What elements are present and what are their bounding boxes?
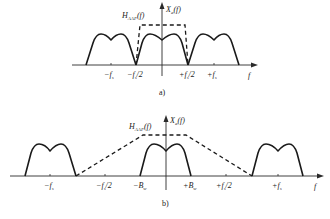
- panel-a: HAAF(f) Xa(f) −fs −fs/2 +fs/2 +fs f a): [72, 2, 258, 97]
- caption-b: b): [162, 199, 169, 208]
- caption-a: a): [159, 88, 166, 97]
- spectrum-replica-right: [188, 34, 239, 65]
- aliasing-diagram: HAAF(f) Xa(f) −fs −fs/2 +fs/2 +fs f a) H…: [0, 0, 330, 219]
- axis-arrow-icon: [251, 63, 258, 68]
- axis-arrow-icon: [164, 115, 169, 122]
- axis-arrow-icon: [317, 174, 324, 179]
- spectrum-label: Xa(f): [165, 5, 181, 15]
- tick-label-pos-bw: +Bw: [183, 181, 197, 191]
- spectrum-label: Xa(f): [169, 116, 185, 126]
- tick-label-neg-fs: −fs: [44, 181, 54, 191]
- tick-label-pos-fs: +fs: [272, 181, 282, 191]
- tick-label-neg-half-fs: −fs/2: [96, 181, 112, 191]
- spectrum-baseband: [140, 144, 191, 176]
- spectrum-replica-right: [252, 144, 303, 176]
- panel-b: HAAF(f) Xa(f) −fs −fs/2 −Bw +Bw +fs/2 +f…: [10, 115, 324, 208]
- tick-label-neg-half-fs: −fs/2: [127, 70, 143, 80]
- filter-label: HAAF(f): [121, 11, 145, 21]
- axis-arrow-icon: [160, 2, 165, 9]
- anti-alias-filter-response: [76, 135, 252, 176]
- spectrum-replica-left: [25, 144, 76, 176]
- filter-label: HAAF(f): [128, 122, 152, 132]
- tick-label-pos-fs: +fs: [207, 70, 217, 80]
- spectrum-replica-left: [86, 34, 136, 65]
- tick-label-pos-half-fs: +fs/2: [179, 70, 195, 80]
- tick-label-neg-fs: −fs: [104, 70, 114, 80]
- tick-label-neg-bw: −Bw: [133, 181, 147, 191]
- axis-label-f: f: [248, 71, 252, 80]
- tick-label-pos-half-fs: +fs/2: [216, 181, 232, 191]
- axis-label-f: f: [314, 182, 318, 191]
